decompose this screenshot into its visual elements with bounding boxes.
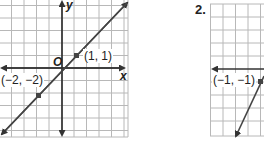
y-axis-label: y <box>66 0 73 12</box>
point-neg1-neg1 <box>258 79 263 84</box>
point-label-1-1: (1, 1) <box>83 49 113 63</box>
coordinate-graph-2: (−1, −1) <box>210 0 264 141</box>
point-1-1 <box>74 53 79 58</box>
x-axis-label: x <box>120 69 127 83</box>
origin-label: O <box>53 55 62 69</box>
grid-lines-2 <box>210 4 264 136</box>
point-label-neg1-neg1: (−1, −1) <box>212 73 256 87</box>
coordinate-graph-1: y x O (1, 1) (−2, −2) <box>0 0 132 141</box>
problem-number-2: 2. <box>195 2 206 17</box>
point-label-neg2-neg2: (−2, −2) <box>0 73 44 87</box>
point-neg2-neg2 <box>36 93 41 98</box>
graph-1-canvas <box>0 0 132 141</box>
graph-2-canvas <box>210 0 264 141</box>
